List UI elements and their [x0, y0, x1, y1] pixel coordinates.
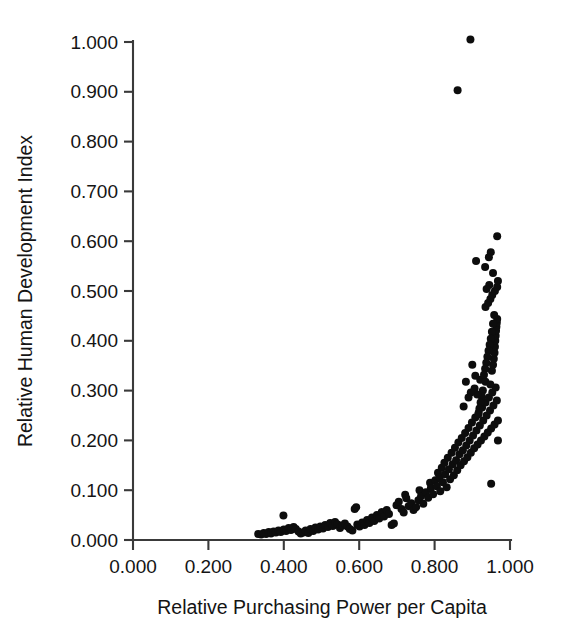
scatter-points-layer — [254, 36, 502, 539]
data-point — [494, 416, 502, 424]
y-tick-label: 1.000 — [70, 32, 118, 53]
y-tick-label: 0.400 — [70, 330, 118, 351]
data-point — [460, 403, 468, 411]
data-point — [468, 361, 476, 369]
data-point — [443, 483, 451, 491]
data-point — [487, 480, 495, 488]
data-point — [412, 503, 420, 511]
y-tick-label: 0.900 — [70, 81, 118, 102]
y-tick-label: 0.000 — [70, 530, 118, 551]
x-axis: 0.0000.2000.4000.6000.8001.000 — [109, 540, 534, 577]
data-point — [489, 320, 497, 328]
x-tick-label: 1.000 — [486, 556, 534, 577]
plot-canvas: 0.0000.1000.2000.3000.4000.5000.6000.700… — [0, 0, 567, 635]
data-point — [494, 277, 502, 285]
data-point — [485, 253, 493, 261]
data-point — [466, 36, 474, 44]
data-point — [279, 512, 287, 520]
data-point — [385, 510, 393, 518]
data-point — [483, 285, 491, 293]
y-axis-tick-marks — [124, 42, 133, 540]
y-tick-label: 0.800 — [70, 131, 118, 152]
x-tick-label: 0.200 — [185, 556, 233, 577]
x-tick-label: 0.000 — [109, 556, 157, 577]
data-point — [454, 86, 462, 94]
data-point — [480, 371, 488, 379]
data-point — [481, 263, 489, 271]
data-point — [390, 520, 398, 528]
x-tick-label: 0.600 — [335, 556, 383, 577]
data-point — [490, 311, 498, 319]
y-tick-label: 0.600 — [70, 231, 118, 252]
data-point — [494, 436, 502, 444]
x-tick-label: 0.400 — [260, 556, 308, 577]
y-axis-title: Relative Human Development Index — [14, 135, 36, 447]
data-point — [486, 381, 494, 389]
data-point — [493, 232, 501, 240]
data-point — [395, 498, 403, 506]
data-point — [489, 269, 497, 277]
y-tick-label: 0.500 — [70, 281, 118, 302]
data-point — [352, 503, 360, 511]
y-axis: 0.0000.1000.2000.3000.4000.5000.6000.700… — [70, 32, 133, 551]
data-point — [474, 411, 482, 419]
x-axis-title: Relative Purchasing Power per Capita — [157, 596, 487, 618]
y-tick-label: 0.100 — [70, 480, 118, 501]
data-point — [493, 397, 501, 405]
x-axis-tick-labels: 0.0000.2000.4000.6000.8001.000 — [109, 556, 534, 577]
y-tick-label: 0.700 — [70, 181, 118, 202]
y-tick-label: 0.300 — [70, 380, 118, 401]
x-tick-label: 0.800 — [411, 556, 459, 577]
x-axis-tick-marks — [133, 540, 510, 550]
data-point — [429, 490, 437, 498]
data-point — [472, 257, 480, 265]
y-axis-tick-labels: 0.0000.1000.2000.3000.4000.5000.6000.700… — [70, 32, 118, 551]
y-tick-label: 0.200 — [70, 430, 118, 451]
data-point — [488, 328, 496, 336]
data-point — [465, 394, 473, 402]
data-point — [400, 509, 408, 517]
scatter-plot-figure: 0.0000.1000.2000.3000.4000.5000.6000.700… — [0, 0, 567, 635]
data-point — [462, 378, 470, 386]
